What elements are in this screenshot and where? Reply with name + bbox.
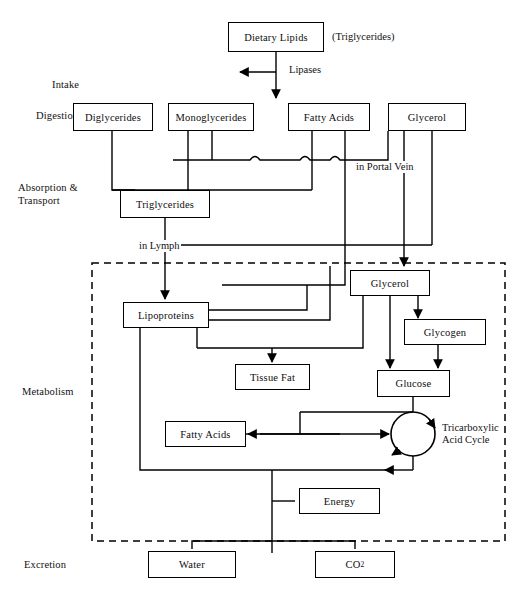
node-triglycerides[interactable]: Triglycerides (120, 190, 210, 218)
node-diglycerides[interactable]: Diglycerides (73, 103, 153, 131)
label-triglycerides-paren: (Triglycerides) (331, 31, 396, 43)
pathway-diagram: Intake Digestion Absorption & Transport … (0, 0, 532, 599)
node-tissue-fat[interactable]: Tissue Fat (235, 364, 310, 390)
node-glycerol-metabolism[interactable]: Glycerol (350, 270, 430, 296)
node-dietary-lipids[interactable]: Dietary Lipids (228, 22, 324, 52)
label-tricarboxylic-acid-cycle: Tricarboxylic Acid Cycle (441, 422, 500, 446)
node-fatty-acids-metabolism[interactable]: Fatty Acids (165, 421, 246, 447)
label-in-lymph: in Lymph (138, 240, 181, 252)
node-lipoproteins[interactable]: Lipoproteins (123, 302, 209, 328)
label-lipases: Lipases (288, 64, 322, 76)
node-fatty-acids-digestion[interactable]: Fatty Acids (288, 103, 370, 131)
node-co2-subscript: 2 (361, 560, 365, 569)
node-co2[interactable]: CO2 (315, 551, 395, 578)
node-glycerol-digestion[interactable]: Glycerol (388, 103, 466, 131)
node-glucose[interactable]: Glucose (377, 370, 450, 397)
node-water[interactable]: Water (148, 551, 236, 578)
label-in-portal-vein: in Portal Vein (355, 161, 415, 173)
node-monoglycerides[interactable]: Monoglycerides (168, 103, 254, 131)
connector-lines (0, 0, 532, 599)
node-co2-text: CO (346, 559, 361, 570)
node-energy[interactable]: Energy (299, 488, 380, 514)
node-glycogen[interactable]: Glycogen (404, 319, 486, 345)
